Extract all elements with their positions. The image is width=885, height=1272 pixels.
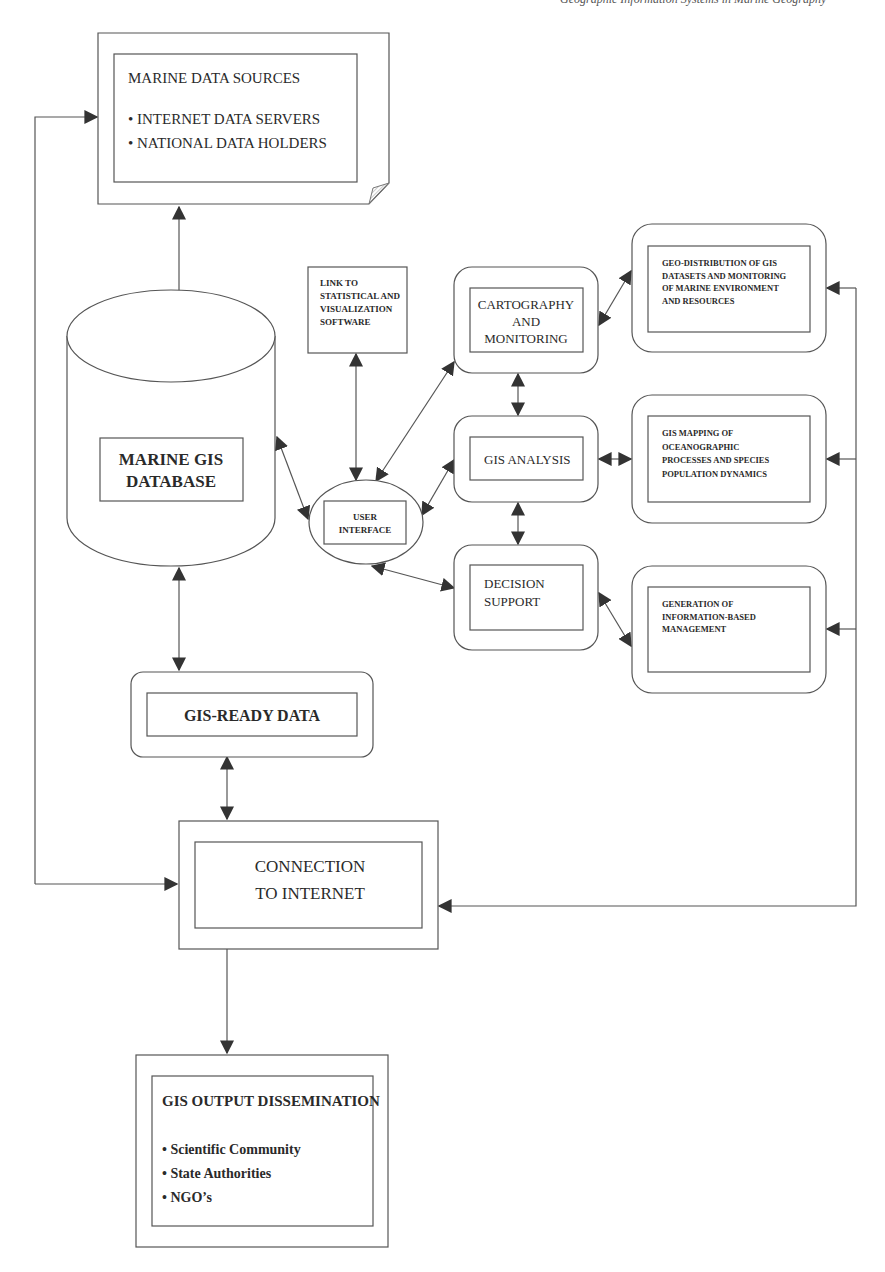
node-geo-distribution: GEO-DISTRIBUTION OF GIS DATASETS AND MON… bbox=[632, 224, 826, 352]
node-label-line: INFORMATION-BASED bbox=[662, 612, 756, 622]
node-label-line: AND bbox=[512, 314, 540, 329]
node-label-line: LINK TO bbox=[320, 278, 358, 288]
node-link-software: LINK TO STATISTICAL AND VISUALIZATION SO… bbox=[308, 267, 407, 353]
node-label-line: CARTOGRAPHY bbox=[478, 297, 575, 312]
node-label-line: DATABASE bbox=[126, 472, 216, 491]
node-label-line: SOFTWARE bbox=[320, 317, 371, 327]
node-decision-support: DECISION SUPPORT bbox=[454, 545, 598, 650]
node-label-line: MANAGEMENT bbox=[662, 624, 727, 634]
bullet-item: • NATIONAL DATA HOLDERS bbox=[128, 135, 327, 151]
node-generation: GENERATION OF INFORMATION-BASED MANAGEME… bbox=[632, 566, 826, 693]
node-label-line: OCEANOGRAPHIC bbox=[662, 442, 739, 452]
node-label-line: SUPPORT bbox=[484, 594, 540, 609]
node-label-line: DATASETS AND MONITORING bbox=[662, 271, 787, 281]
edge-ui-decision bbox=[372, 566, 454, 588]
node-cartography: CARTOGRAPHY AND MONITORING bbox=[454, 267, 598, 373]
cylinder-top bbox=[67, 290, 275, 382]
node-label-line: GIS ANALYSIS bbox=[484, 452, 570, 467]
node-marine-data-sources: MARINE DATA SOURCES • INTERNET DATA SERV… bbox=[98, 33, 389, 204]
node-gis-ready-data: GIS-READY DATA bbox=[131, 672, 373, 757]
node-label-line: DECISION bbox=[484, 576, 545, 591]
node-label-line: MARINE GIS bbox=[119, 450, 223, 469]
node-label-line: CONNECTION bbox=[255, 857, 366, 876]
bullet-item: • State Authorities bbox=[162, 1166, 272, 1181]
node-label-line: POPULATION DYNAMICS bbox=[662, 469, 767, 479]
node-gis-analysis: GIS ANALYSIS bbox=[454, 416, 598, 502]
node-label-line: MONITORING bbox=[484, 331, 568, 346]
edge-ui-analysis bbox=[422, 460, 454, 515]
bullet-item: • INTERNET DATA SERVERS bbox=[128, 111, 320, 127]
node-gis-output: GIS OUTPUT DISSEMINATION • Scientific Co… bbox=[136, 1055, 388, 1247]
node-label-line: GIS MAPPING OF bbox=[662, 428, 733, 438]
node-label-line: TO INTERNET bbox=[255, 884, 365, 903]
edge-decision-generation bbox=[599, 593, 631, 646]
node-label-line: GIS-READY DATA bbox=[184, 707, 321, 724]
node-label-line: OF MARINE ENVIRONMENT bbox=[662, 283, 779, 293]
node-label-line: PROCESSES AND SPECIES bbox=[662, 455, 770, 465]
node-marine-gis-database: MARINE GIS DATABASE bbox=[67, 290, 275, 566]
node-title: MARINE DATA SOURCES bbox=[128, 70, 300, 86]
node-label-line: AND RESOURCES bbox=[662, 296, 735, 306]
bullet-item: • Scientific Community bbox=[162, 1142, 301, 1157]
edge-cartography-geo bbox=[599, 271, 631, 325]
flow-diagram: MARINE DATA SOURCES • INTERNET DATA SERV… bbox=[0, 0, 885, 1272]
node-label-line: VISUALIZATION bbox=[320, 304, 393, 314]
edge-database-ui bbox=[277, 437, 308, 519]
node-label-line: STATISTICAL AND bbox=[320, 291, 400, 301]
node-label-line: USER bbox=[353, 512, 378, 522]
node-gis-mapping: GIS MAPPING OF OCEANOGRAPHIC PROCESSES A… bbox=[632, 395, 826, 523]
node-label-line: GEO-DISTRIBUTION OF GIS bbox=[662, 258, 777, 268]
node-user-interface: USER INTERFACE bbox=[309, 480, 423, 564]
node-label-line: INTERFACE bbox=[339, 525, 391, 535]
node-connection-internet: CONNECTION TO INTERNET bbox=[179, 821, 438, 949]
bullet-item: • NGO’s bbox=[162, 1190, 212, 1205]
node-label-line: GENERATION OF bbox=[662, 599, 733, 609]
edge-ui-cartography bbox=[376, 362, 454, 481]
node-title: GIS OUTPUT DISSEMINATION bbox=[162, 1093, 380, 1109]
